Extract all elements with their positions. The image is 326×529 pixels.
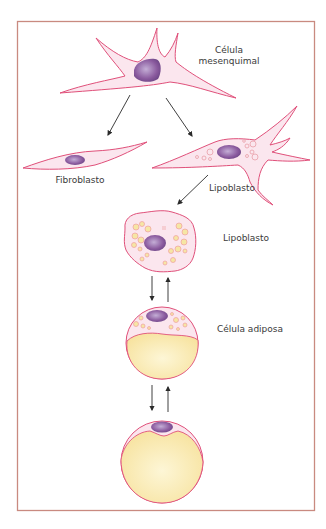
- cell-differentiation-diagram: Célula mesenquimal Fibroblasto Lipoblast…: [0, 0, 326, 529]
- lipoblast-early-nucleus: [217, 145, 241, 159]
- fibroblast-nucleus: [65, 155, 85, 165]
- label-fibroblast: Fibroblasto: [55, 175, 105, 185]
- label-lipoblast-round: Lipoblasto: [223, 233, 270, 243]
- label-mesenchymal-line2: mesenquimal: [199, 56, 260, 66]
- adipocyte-cell: [126, 307, 198, 379]
- label-mesenchymal-line1: Célula: [215, 45, 243, 55]
- label-adipocyte: Célula adiposa: [217, 324, 283, 334]
- adipocyte-nucleus: [146, 310, 168, 322]
- mature-adipocyte-cell: [121, 421, 203, 503]
- mature-adipocyte-nucleus: [151, 422, 173, 433]
- lipoblast-round-nucleus: [144, 235, 166, 251]
- label-lipoblast-early: Lipoblasto: [209, 183, 256, 193]
